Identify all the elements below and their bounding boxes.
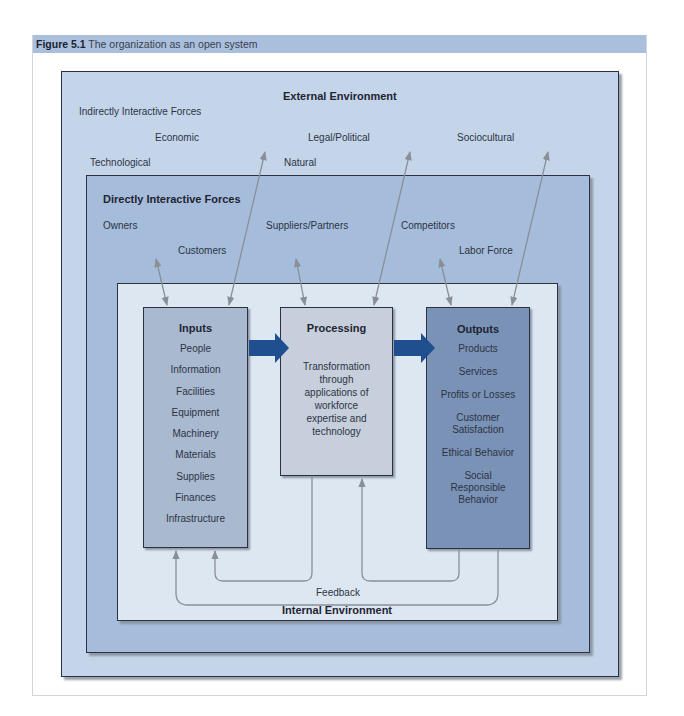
feedback-outputs-to-inputs <box>176 550 498 605</box>
arrow-processing-to-outputs <box>394 333 435 363</box>
feedback-loops <box>176 477 498 605</box>
arrow-labor-outputs <box>440 259 451 305</box>
arrow-suppliers-processing <box>296 259 305 305</box>
arrow-legal-processing <box>374 152 410 305</box>
feedback-processing-to-inputs <box>215 477 312 581</box>
flow-arrows <box>249 333 435 363</box>
indirect-force-arrows <box>229 152 548 305</box>
feedback-outputs-to-processing <box>362 479 459 581</box>
arrow-sociocultural-outputs <box>512 152 548 305</box>
direct-force-arrows <box>156 259 451 305</box>
arrow-inputs-to-processing <box>249 333 289 363</box>
arrow-economic-inputs <box>229 152 265 305</box>
connector-layer <box>0 0 684 716</box>
arrow-customers-inputs <box>156 259 167 305</box>
